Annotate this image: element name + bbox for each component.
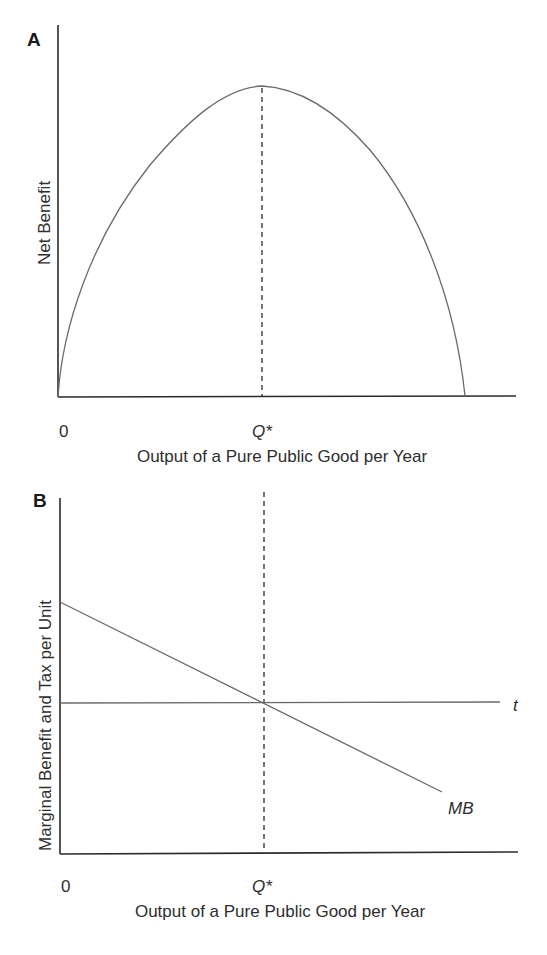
panel-a: A Net Benefit 0 Q* Output of a Pure Publ… (27, 25, 516, 466)
panel-a-x-axis-label: Output of a Pure Public Good per Year (137, 447, 427, 466)
tax-line-label: t (513, 696, 519, 715)
figure: A Net Benefit 0 Q* Output of a Pure Publ… (0, 0, 547, 955)
panel-b-x-axis-label: Output of a Pure Public Good per Year (135, 902, 425, 921)
tax-line (60, 702, 500, 703)
panel-b-x-axis (60, 852, 518, 854)
panel-b-qstar-tick: Q* (252, 877, 273, 896)
panel-a-origin-tick: 0 (59, 422, 68, 441)
marginal-benefit-line (60, 602, 442, 792)
panel-b-label: B (33, 490, 47, 511)
panel-a-x-axis (58, 396, 516, 397)
panel-a-qstar-tick: Q* (252, 422, 273, 441)
panel-a-label: A (27, 29, 41, 50)
panel-b-origin-tick: 0 (61, 877, 70, 896)
panel-a-y-axis-label: Net Benefit (35, 181, 54, 265)
panel-b-y-axis-label: Marginal Benefit and Tax per Unit (36, 600, 55, 851)
panel-b: B t MB Marginal Benefit and Tax per Unit… (33, 490, 519, 921)
mb-line-label: MB (448, 799, 474, 818)
